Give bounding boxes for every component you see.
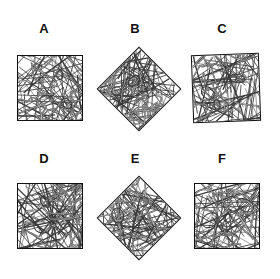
fiber-texture-f [195, 184, 259, 249]
fiber-texture-c [192, 54, 260, 123]
panel-c [191, 53, 261, 123]
fiber-texture-b [97, 48, 180, 131]
panel-label-f: F [212, 152, 232, 166]
fiber-texture-e [97, 177, 180, 260]
panel-e [97, 176, 182, 261]
panel-label-c: C [212, 22, 232, 36]
panel-d [17, 183, 83, 249]
panel-f [194, 183, 260, 249]
fiber-texture-a [18, 56, 82, 121]
panel-b [97, 47, 182, 132]
panel-a [17, 55, 83, 121]
panel-label-a: A [34, 22, 54, 36]
panel-label-b: B [125, 22, 145, 36]
panel-label-e: E [125, 152, 145, 166]
panel-label-d: D [34, 152, 54, 166]
fiber-texture-d [18, 184, 82, 249]
figure-root: ABCDEF [0, 0, 280, 279]
